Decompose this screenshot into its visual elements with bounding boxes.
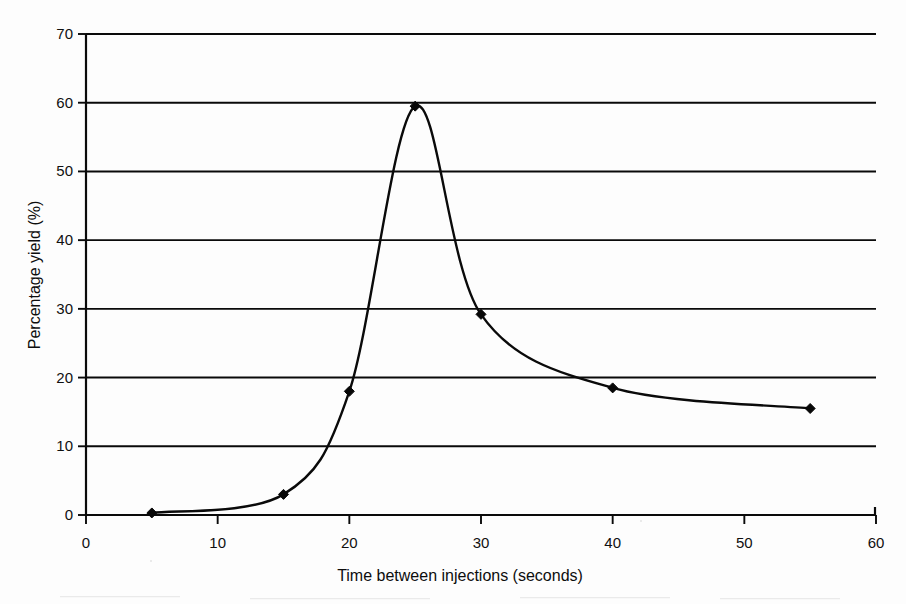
y-axis-ticks	[78, 34, 86, 515]
data-point-marker	[344, 386, 354, 396]
x-tick-label: 30	[473, 534, 490, 551]
y-axis-title: Percentage yield (%)	[26, 201, 43, 350]
data-point-marker	[147, 508, 157, 518]
x-tick-label: 10	[209, 534, 226, 551]
x-axis-ticks	[86, 515, 876, 524]
x-axis-tick-labels: 0102030405060	[82, 534, 885, 551]
x-tick-label: 20	[341, 534, 358, 551]
y-tick-label: 30	[56, 300, 73, 317]
data-point-marker	[608, 383, 618, 393]
scan-artifacts	[60, 520, 840, 599]
gridlines	[86, 34, 876, 515]
y-axis-tick-labels: 010203040506070	[56, 25, 73, 523]
y-tick-label: 70	[56, 25, 73, 42]
x-tick-label: 40	[604, 534, 621, 551]
y-tick-label: 50	[56, 162, 73, 179]
x-tick-label: 60	[868, 534, 885, 551]
line-chart-canvas: 010203040506070 0102030405060 Percentage…	[0, 0, 906, 604]
chart-figure: 010203040506070 0102030405060 Percentage…	[0, 0, 906, 604]
y-tick-label: 10	[56, 437, 73, 454]
y-tick-label: 20	[56, 369, 73, 386]
y-tick-label: 40	[56, 231, 73, 248]
y-tick-label: 60	[56, 94, 73, 111]
x-axis-title: Time between injections (seconds)	[337, 567, 583, 584]
x-tick-label: 50	[736, 534, 753, 551]
y-tick-label: 0	[65, 506, 73, 523]
data-point-marker	[805, 403, 815, 413]
x-tick-label: 0	[82, 534, 90, 551]
